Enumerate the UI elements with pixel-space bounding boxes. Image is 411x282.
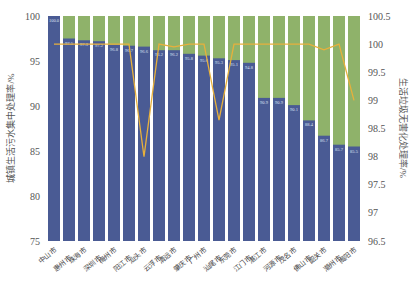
x-tick-label: 梅州市 — [96, 246, 118, 266]
bar-value-label: 97.3 — [80, 42, 89, 47]
y-tick-label: 85 — [30, 146, 40, 157]
bar-value-label: 86.7 — [320, 138, 329, 143]
bar-value-label: 94.8 — [245, 65, 254, 70]
bar-value-label: 85.7 — [335, 147, 344, 152]
y2-tick-label: 99.5 — [368, 67, 386, 78]
y-tick-label: 95 — [30, 56, 40, 67]
bar — [63, 39, 75, 242]
bar — [138, 47, 150, 241]
bar — [243, 63, 255, 241]
x-tick-label: 珠海市 — [66, 246, 88, 266]
y-tick-label: 100 — [25, 11, 40, 22]
x-tick-label: 湛江市 — [246, 246, 268, 266]
bar-value-label: 96.2 — [155, 52, 163, 57]
bar-value-label: 90.9 — [260, 100, 269, 105]
bar-value-label: 88.4 — [305, 122, 314, 127]
bar-value-label: 96.8 — [110, 47, 119, 52]
y-tick-label: 80 — [30, 191, 40, 202]
y-tick-label: 90 — [30, 101, 40, 112]
bar — [303, 120, 315, 241]
x-tick-label: 清远市 — [156, 246, 178, 266]
bar-series — [48, 16, 360, 241]
chart: 100.097.597.397.296.896.796.696.296.295.… — [0, 0, 411, 282]
bar — [228, 60, 240, 241]
x-tick-label: 汕头市 — [126, 246, 148, 266]
bar-value-label: 85.5 — [350, 149, 359, 154]
y2-tick-label: 97.5 — [368, 179, 386, 190]
right-y-axis-title: 生活垃圾无害化处理率/% — [398, 78, 409, 179]
bar-value-label: 100.0 — [49, 18, 60, 23]
bar — [78, 40, 90, 241]
bar-value-label: 95.3 — [215, 60, 224, 65]
bar — [183, 54, 195, 241]
left-y-axis-title: 城镇生活污水集中处理率/% — [5, 73, 16, 183]
bar — [48, 16, 60, 241]
bar — [168, 50, 180, 241]
x-axis-category-labels: 中山市惠州市珠海市深圳市梅州市阳江市汕头市云浮市清远市肇庆市广州市汕尾市东莞市江… — [36, 246, 358, 274]
bar-value-label: 96.2 — [170, 52, 178, 57]
x-tick-label: 中山市 — [36, 246, 58, 266]
y2-tick-label: 97 — [368, 207, 378, 218]
y2-tick-label: 98 — [368, 151, 378, 162]
x-tick-label: 茂名市 — [276, 246, 298, 266]
bar — [273, 98, 285, 241]
y2-tick-label: 96.5 — [368, 236, 386, 247]
bar-value-label: 96.6 — [140, 49, 149, 54]
bar — [198, 56, 210, 241]
x-tick-label: 韶关市 — [306, 246, 328, 266]
bar-value-label: 95.8 — [185, 56, 194, 61]
bar-value-label: 90.9 — [275, 100, 284, 105]
left-y-axis-ticks: 7580859095100 — [25, 11, 40, 247]
x-tick-label: 广州市 — [186, 246, 208, 266]
bar — [258, 98, 270, 241]
bar — [348, 147, 360, 242]
bar — [318, 136, 330, 241]
y2-tick-label: 100 — [368, 39, 383, 50]
x-tick-label: 东莞市 — [216, 246, 238, 266]
y2-tick-label: 100.5 — [368, 11, 391, 22]
y-tick-label: 75 — [30, 236, 40, 247]
bar-value-label: 95.1 — [230, 62, 238, 67]
right-y-axis-ticks: 96.59797.59898.59999.5100100.5 — [368, 11, 391, 247]
y2-tick-label: 99 — [368, 95, 378, 106]
bar — [108, 45, 120, 241]
bar — [213, 58, 225, 241]
bar — [333, 145, 345, 241]
bar — [93, 41, 105, 241]
y2-tick-label: 98.5 — [368, 123, 386, 134]
bar — [288, 105, 300, 241]
x-tick-label: 揭阳市 — [336, 246, 358, 266]
bar-value-label: 90.1 — [290, 107, 298, 112]
